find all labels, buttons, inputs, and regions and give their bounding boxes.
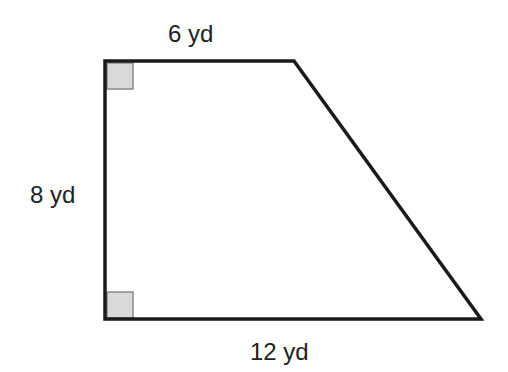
label-top-side: 6 yd [168,22,213,46]
label-left-side: 8 yd [30,183,75,207]
right-angle-marker-top [107,63,133,89]
right-angle-marker-bottom [107,292,133,318]
trapezoid-outline [105,61,481,319]
label-bottom-side: 12 yd [250,340,309,364]
trapezoid-diagram [0,0,508,372]
